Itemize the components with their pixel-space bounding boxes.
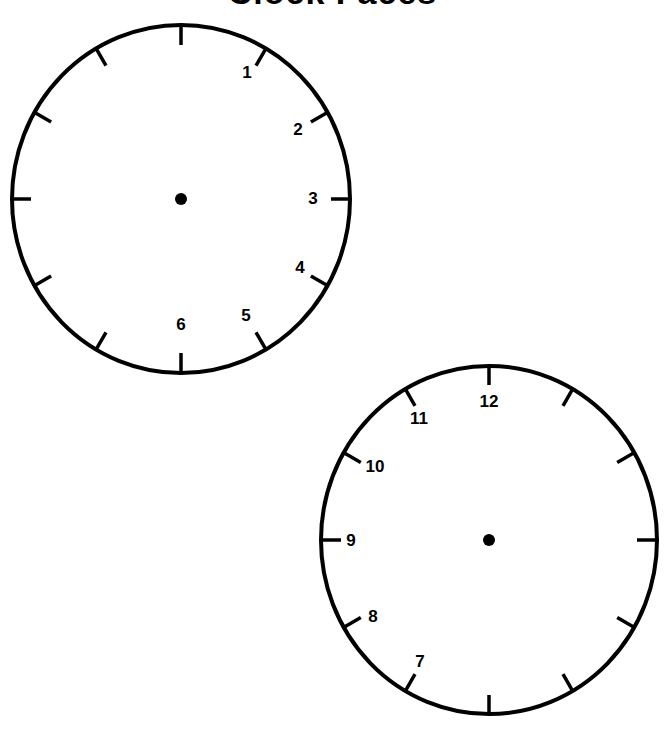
clock-face-2-numerals: 789101112 [346, 392, 498, 671]
hour-numeral-4: 4 [295, 258, 305, 277]
hour-numeral-7: 7 [415, 652, 424, 671]
clock-faces-canvas: 123456 789101112 [0, 0, 665, 731]
hour-tick [311, 112, 328, 122]
hour-numeral-6: 6 [176, 315, 185, 334]
hour-numeral-3: 3 [308, 189, 317, 208]
clock-face-1-numerals: 123456 [176, 63, 317, 334]
hour-tick [256, 332, 266, 349]
hour-tick [256, 48, 266, 65]
hour-numeral-5: 5 [241, 306, 250, 325]
hour-tick [96, 48, 106, 65]
hour-numeral-1: 1 [242, 63, 251, 82]
hour-tick [617, 618, 634, 628]
hour-tick [96, 332, 106, 349]
hour-tick [34, 276, 51, 286]
hour-numeral-9: 9 [346, 531, 355, 550]
clock-face-1-center-dot [175, 193, 187, 205]
hour-numeral-10: 10 [366, 457, 385, 476]
clock-face-1: 123456 [11, 25, 351, 373]
hour-tick [563, 674, 573, 691]
hour-numeral-2: 2 [293, 120, 302, 139]
hour-tick [563, 388, 573, 405]
hour-tick [405, 388, 415, 405]
hour-tick [311, 276, 328, 286]
hour-tick [617, 453, 634, 463]
hour-numeral-11: 11 [410, 409, 428, 428]
clock-face-2-center-dot [483, 534, 495, 546]
hour-numeral-8: 8 [368, 607, 377, 626]
hour-tick [34, 112, 51, 122]
clock-face-2: 789101112 [321, 365, 657, 715]
hour-numeral-12: 12 [480, 392, 499, 411]
hour-tick [344, 618, 361, 628]
hour-tick [344, 453, 361, 463]
hour-tick [405, 674, 415, 691]
